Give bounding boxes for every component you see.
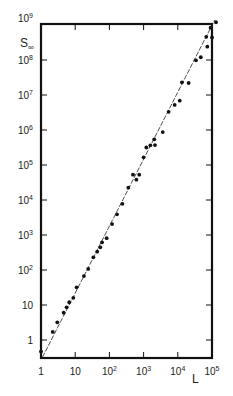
- y-tick-labels: 110102103104105106107108109: [18, 12, 33, 346]
- data-point: [187, 81, 191, 85]
- data-point: [148, 143, 152, 147]
- y-tick-label: 102: [18, 264, 33, 276]
- data-point: [126, 186, 130, 190]
- data-point: [199, 55, 203, 59]
- y-tick-label: 109: [18, 12, 33, 24]
- data-point: [178, 99, 182, 103]
- data-point: [65, 305, 69, 309]
- y-tick-label: 108: [18, 54, 33, 66]
- x-tick-label: 1: [38, 366, 44, 377]
- data-point: [210, 36, 214, 40]
- data-point: [153, 143, 157, 147]
- data-point: [95, 250, 99, 254]
- data-point: [105, 236, 109, 240]
- x-tick-label: 105: [204, 365, 219, 377]
- data-point: [209, 26, 213, 30]
- y-tick-label: 10: [22, 300, 34, 311]
- data-point: [62, 311, 66, 315]
- x-tick-label: 102: [102, 365, 117, 377]
- data-point: [134, 178, 138, 182]
- data-point: [115, 212, 119, 216]
- data-point: [39, 350, 43, 354]
- data-point: [161, 130, 165, 134]
- y-axis-title: S∞: [20, 36, 34, 52]
- x-tick-label: 10: [70, 366, 82, 377]
- data-point: [121, 202, 125, 206]
- y-tick-label: 106: [18, 124, 33, 136]
- x-tick-label: 103: [136, 365, 151, 377]
- data-point: [180, 80, 184, 84]
- data-point: [55, 320, 59, 324]
- data-point: [67, 300, 71, 304]
- y-tick-label: 107: [18, 89, 33, 101]
- data-point: [173, 103, 177, 107]
- y-tick-label: 103: [18, 229, 33, 241]
- y-tick-label: 1: [27, 335, 33, 346]
- data-point: [110, 222, 114, 226]
- log-log-scatter-chart: 110102103104105 110102103104105106107108…: [0, 0, 233, 396]
- x-tick-label: 104: [170, 365, 185, 377]
- data-point: [142, 155, 146, 159]
- data-point: [100, 240, 104, 244]
- data-point: [205, 45, 209, 49]
- data-point: [91, 255, 95, 259]
- data-point: [131, 173, 135, 177]
- data-points: [39, 20, 218, 353]
- y-tick-label: 105: [18, 159, 33, 171]
- data-point: [152, 137, 156, 141]
- data-point: [214, 20, 218, 24]
- data-point: [75, 285, 79, 289]
- data-point: [144, 146, 148, 150]
- data-point: [82, 274, 86, 278]
- data-point: [194, 58, 198, 62]
- x-axis-title: L: [192, 372, 199, 386]
- data-point: [71, 296, 75, 300]
- data-point: [137, 173, 141, 177]
- data-point: [86, 267, 90, 271]
- data-point: [51, 330, 55, 334]
- data-point: [204, 35, 208, 39]
- data-point: [98, 245, 102, 249]
- data-point: [167, 110, 171, 114]
- y-tick-label: 104: [18, 194, 33, 206]
